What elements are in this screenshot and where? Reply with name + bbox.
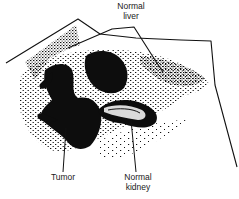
label-tumor-text: Tumor [45,173,81,183]
label-normal-liver: Normal liver [108,2,154,21]
label-normal-liver-line2: liver [108,12,154,22]
label-tumor: Tumor [45,173,81,183]
label-normal-kidney-line2: kidney [116,183,160,193]
diagram-canvas [0,0,239,199]
label-normal-kidney: Normal kidney [116,173,160,192]
